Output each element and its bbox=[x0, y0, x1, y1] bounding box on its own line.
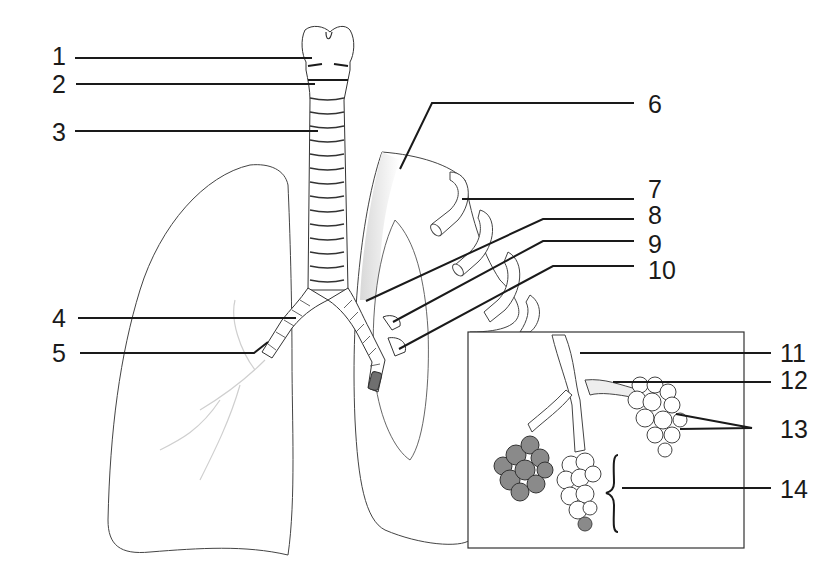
label-10: 10 bbox=[648, 258, 676, 283]
label-6: 6 bbox=[648, 92, 662, 117]
alveoli-inset bbox=[468, 332, 744, 548]
label-11: 11 bbox=[780, 341, 806, 366]
label-4: 4 bbox=[52, 306, 66, 331]
label-2: 2 bbox=[52, 72, 66, 97]
label-12: 12 bbox=[780, 368, 808, 393]
label-5: 5 bbox=[52, 341, 66, 366]
label-1: 1 bbox=[52, 44, 66, 69]
label-8: 8 bbox=[648, 203, 662, 228]
right-lung bbox=[108, 165, 293, 555]
label-13: 13 bbox=[780, 417, 808, 442]
trachea bbox=[302, 26, 354, 290]
respiratory-diagram bbox=[0, 0, 832, 585]
label-3: 3 bbox=[52, 120, 66, 145]
label-9: 9 bbox=[648, 232, 662, 257]
label-7: 7 bbox=[648, 177, 662, 202]
label-14: 14 bbox=[780, 477, 808, 502]
